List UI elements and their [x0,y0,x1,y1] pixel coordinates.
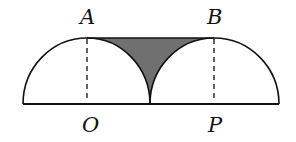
label-A: A [78,5,95,29]
label-O: O [82,113,99,137]
geometry-diagram: A B O P [0,0,296,142]
label-P: P [207,113,223,137]
label-B: B [206,5,222,29]
